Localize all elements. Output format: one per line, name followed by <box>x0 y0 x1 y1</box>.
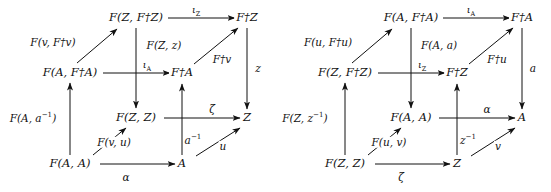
commutative-diagram-right: F(A, F†A) F†A F(Z, F†Z) F†Z F(A, A) A F(… <box>271 0 551 192</box>
edge-label-F-A-a: F(A, a) <box>420 40 458 51</box>
node-front-bot-left: F(Z, Z) <box>323 157 367 171</box>
node-back-top-left: F(A, F†A) <box>382 11 441 25</box>
node-back-top-right: F†Z <box>234 11 260 25</box>
edge-label-zeta: ζ <box>208 104 216 115</box>
edge-label-u: u <box>219 141 228 152</box>
edge-label-F-Z-zinv: F(Z, z−1) <box>281 113 328 124</box>
edge-label-F-Z-z: F(Z, z) <box>146 40 183 51</box>
node-back-bot-left: F(A, A) <box>389 111 434 125</box>
commutative-diagram-left: F(Z, F†Z) F†Z F(A, F†A) F†A F(Z, Z) Z F(… <box>0 0 275 192</box>
edge-label-iota-z: ιZ <box>417 60 427 70</box>
edge-label-F-u-Fdagu: F(u, F†u) <box>303 37 353 48</box>
edge-label-a-inv: a−1 <box>184 135 203 146</box>
edge-label-Fdag-v: F†v <box>212 54 232 65</box>
node-back-bot-right: Z <box>241 111 253 125</box>
edge-label-F-v-Fdagv: F(v, F†v) <box>29 37 76 48</box>
figure-canvas: F(Z, F†Z) F†Z F(A, F†A) F†A F(Z, Z) Z F(… <box>0 0 551 192</box>
edge-label-a: a <box>529 63 537 74</box>
edge-label-z: z <box>254 63 262 74</box>
edge-label-iota-a: ιA <box>466 5 476 15</box>
arrow-layer-left <box>0 0 275 192</box>
edge-label-zeta: ζ <box>397 172 405 183</box>
edge-label-iota-a: ιA <box>142 60 152 70</box>
edge-label-iota-z: ιZ <box>191 5 201 15</box>
edge-label-F-A-ainv: F(A, a−1) <box>9 113 58 124</box>
edge-label-F-u-v: F(u, v) <box>371 137 408 148</box>
node-back-top-right: F†A <box>509 11 535 25</box>
node-back-top-left: F(Z, F†Z) <box>107 11 165 25</box>
edge-label-alpha: α <box>482 104 491 115</box>
node-back-bot-left: F(Z, Z) <box>114 111 158 125</box>
edge-label-z-inv: z−1 <box>459 135 477 146</box>
edge-label-v: v <box>494 141 502 152</box>
node-front-top-left: F(A, F†A) <box>41 66 100 80</box>
node-front-bot-right: A <box>176 157 188 171</box>
node-front-bot-right: Z <box>451 157 463 171</box>
arrow-v <box>471 128 515 156</box>
edge-label-Fdag-u: F†u <box>486 54 507 65</box>
arrow-layer-right <box>271 0 551 192</box>
node-back-bot-right: A <box>516 111 528 125</box>
node-front-top-left: F(Z, F†Z) <box>316 66 374 80</box>
node-front-top-right: F†A <box>169 66 195 80</box>
arrow-F-v-Fdagv <box>77 29 117 63</box>
edge-label-alpha: α <box>121 172 130 183</box>
edge-label-F-v-u: F(v, u) <box>96 137 132 148</box>
node-front-bot-left: F(A, A) <box>48 157 93 171</box>
arrow-F-u-Fdagu <box>352 29 392 63</box>
node-front-top-right: F†Z <box>444 66 470 80</box>
